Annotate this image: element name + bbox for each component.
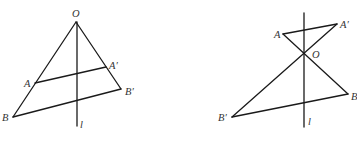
label-l: l bbox=[80, 119, 83, 130]
segment-OB-prime bbox=[76, 22, 121, 89]
label-B: B bbox=[351, 91, 357, 102]
label-B: B bbox=[2, 112, 9, 123]
label-O: O bbox=[312, 49, 320, 60]
segment-AA-prime bbox=[283, 24, 337, 34]
label-A-prime: A′ bbox=[108, 60, 118, 71]
label-B-prime: B′ bbox=[125, 86, 134, 97]
segment-A-prime-B-prime bbox=[232, 24, 337, 117]
segment-BB-prime bbox=[232, 94, 348, 117]
label-O: O bbox=[72, 8, 80, 19]
segment-AA-prime bbox=[35, 67, 106, 83]
diagram-canvas: O A A′ B B′ l A A′ O B B′ l bbox=[0, 0, 357, 151]
label-l: l bbox=[308, 116, 311, 127]
label-A-prime: A′ bbox=[339, 19, 349, 30]
label-A: A bbox=[273, 29, 281, 40]
left-figure: O A A′ B B′ l bbox=[2, 8, 134, 130]
label-A: A bbox=[23, 78, 31, 89]
right-figure: A A′ O B B′ l bbox=[218, 13, 357, 127]
label-B-prime: B′ bbox=[218, 112, 227, 123]
